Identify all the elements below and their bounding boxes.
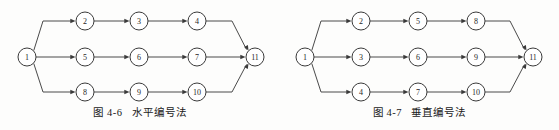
arrow-head-bottom-row-1: [461, 90, 466, 94]
node-label: 2: [359, 17, 363, 26]
arrow-head-start-bottom-row: [70, 90, 75, 94]
arrow-head-middle-row-0: [124, 55, 129, 59]
node-label: 6: [137, 53, 141, 62]
node-label: 9: [474, 53, 478, 62]
node-5[interactable]: 5: [409, 12, 427, 30]
node-5[interactable]: 5: [76, 48, 94, 66]
node-1[interactable]: 1: [18, 48, 36, 66]
arrow-head-start-top-row: [346, 19, 351, 23]
arrow-head-middle-row-0: [403, 55, 408, 59]
node-4[interactable]: 4: [352, 83, 370, 101]
node-2[interactable]: 2: [352, 12, 370, 30]
figure-horizontal-numbering: 1234567891011 图 4-6水平编号法: [0, 0, 280, 130]
arrow-head-start-bottom-row: [346, 90, 351, 94]
node-3[interactable]: 3: [352, 48, 370, 66]
node-10[interactable]: 10: [467, 83, 485, 101]
node-6[interactable]: 6: [409, 48, 427, 66]
figure-number-left: 图 4-6: [93, 107, 122, 118]
node-label: 11: [529, 53, 537, 62]
network-diagram-vertical: 1258369471011: [280, 0, 559, 104]
node-4[interactable]: 4: [188, 12, 206, 30]
edge-bottom-row-to-end: [206, 64, 247, 92]
arrow-head-start-middle-row: [346, 55, 351, 59]
edge-start-to-bottom-row: [312, 63, 348, 92]
arrow-head-middle-row-1: [182, 55, 187, 59]
node-label: 10: [472, 88, 480, 97]
arrow-head-bottom-row-0: [403, 90, 408, 94]
node-label: 10: [193, 88, 201, 97]
node-3[interactable]: 3: [130, 12, 148, 30]
edge-top-row-to-end: [485, 21, 525, 50]
node-8[interactable]: 8: [467, 12, 485, 30]
arrow-head-end-middle-row: [240, 55, 245, 59]
node-11[interactable]: 11: [246, 48, 264, 66]
node-label: 5: [83, 53, 87, 62]
arrow-head-bottom-row-0: [124, 90, 129, 94]
edge-start-to-bottom-row: [34, 63, 72, 92]
node-7[interactable]: 7: [409, 83, 427, 101]
node-label: 8: [83, 88, 87, 97]
figure-title-left: 水平编号法: [132, 107, 187, 118]
node-label: 5: [416, 17, 420, 26]
edge-start-to-top-row: [34, 21, 72, 51]
node-6[interactable]: 6: [130, 48, 148, 66]
edge-start-to-top-row: [312, 21, 348, 51]
node-10[interactable]: 10: [188, 83, 206, 101]
figure-caption-left: 图 4-6水平编号法: [0, 104, 280, 119]
node-label: 4: [195, 17, 199, 26]
node-2[interactable]: 2: [76, 12, 94, 30]
arrow-head-top-row-1: [461, 19, 466, 23]
figure-number-right: 图 4-7: [373, 107, 402, 118]
arrow-head-end-middle-row: [518, 55, 523, 59]
arrow-head-start-top-row: [70, 19, 75, 23]
edge-top-row-to-end: [206, 21, 247, 50]
page-canvas: 1234567891011 图 4-6水平编号法 1258369471011 图…: [0, 0, 559, 130]
arrow-head-top-row-1: [182, 19, 187, 23]
figure-vertical-numbering: 1258369471011 图 4-7垂直编号法: [280, 0, 559, 130]
arrow-head-top-row-0: [124, 19, 129, 23]
node-label: 6: [416, 53, 420, 62]
node-label: 11: [251, 53, 259, 62]
arrow-head-top-row-0: [403, 19, 408, 23]
node-label: 3: [359, 53, 363, 62]
node-8[interactable]: 8: [76, 83, 94, 101]
figure-title-right: 垂直编号法: [411, 107, 466, 118]
edge-bottom-row-to-end: [485, 64, 525, 92]
node-label: 8: [474, 17, 478, 26]
node-label: 7: [416, 88, 420, 97]
node-label: 9: [137, 88, 141, 97]
node-label: 4: [359, 88, 363, 97]
node-label: 1: [25, 53, 29, 62]
node-7[interactable]: 7: [188, 48, 206, 66]
arrow-head-start-middle-row: [70, 55, 75, 59]
node-1[interactable]: 1: [296, 48, 314, 66]
node-label: 2: [83, 17, 87, 26]
arrow-head-bottom-row-1: [182, 90, 187, 94]
node-label: 7: [195, 53, 199, 62]
node-label: 1: [303, 53, 307, 62]
node-11[interactable]: 11: [524, 48, 542, 66]
node-9[interactable]: 9: [467, 48, 485, 66]
network-diagram-horizontal: 1234567891011: [0, 0, 280, 104]
node-label: 3: [137, 17, 141, 26]
figure-caption-right: 图 4-7垂直编号法: [280, 104, 559, 119]
arrow-head-middle-row-1: [461, 55, 466, 59]
node-9[interactable]: 9: [130, 83, 148, 101]
